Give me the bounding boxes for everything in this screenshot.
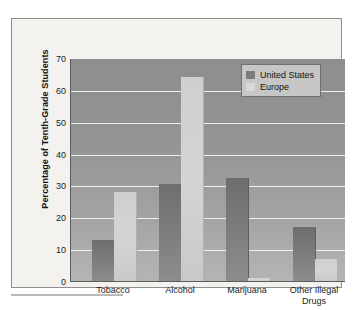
legend-swatch-icon-united-states	[246, 71, 255, 79]
y-tick-label: 10	[44, 246, 66, 255]
y-tick-label: 30	[44, 182, 66, 191]
x-tick-label-alcohol: Alcohol	[147, 285, 213, 296]
legend-label-europe: Europe	[260, 82, 289, 92]
bar-europe-alcohol	[181, 77, 204, 281]
chart-frame: Percentage of Tenth-Grade Students 70 60…	[11, 18, 342, 288]
y-tick-label: 40	[44, 151, 66, 160]
bar-united-states-alcohol	[159, 184, 182, 281]
gridline-20	[71, 218, 345, 219]
bar-europe-tobacco	[114, 192, 137, 281]
y-tick-label: 0	[44, 278, 66, 287]
bar-europe-other-illegal-drugs	[315, 259, 338, 281]
legend-item-united-states: United States	[246, 69, 314, 80]
x-tick-label-other-illegal-drugs: Other Illegal Drugs	[281, 285, 347, 307]
legend: United States Europe	[241, 64, 321, 97]
x-tick-label-line1: Alcohol	[147, 285, 213, 296]
bar-united-states-other-illegal-drugs	[293, 227, 316, 281]
bar-europe-marijuana	[248, 278, 271, 281]
y-tick-label: 70	[44, 55, 66, 64]
x-tick-label-line1: Marijuana	[214, 285, 280, 296]
legend-label-united-states: United States	[260, 70, 314, 80]
x-tick-label-line2: Drugs	[281, 296, 347, 307]
plot-area: United States Europe	[70, 59, 345, 282]
gridline-50	[71, 123, 345, 124]
gridline-40	[71, 155, 345, 156]
y-tick-label: 50	[44, 119, 66, 128]
x-axis-tick-labels: Tobacco Alcohol Marijuana Other Illegal …	[70, 285, 345, 310]
bar-united-states-marijuana	[226, 178, 249, 282]
gridline-30	[71, 186, 345, 187]
legend-swatch-icon-europe	[246, 83, 255, 91]
x-tick-label-marijuana: Marijuana	[214, 285, 280, 296]
caption-rule	[11, 294, 123, 296]
y-axis-tick-labels: 70 60 50 40 30 20 10 0	[42, 59, 66, 282]
bar-united-states-tobacco	[92, 240, 115, 281]
x-tick-label-line1: Other Illegal	[281, 285, 347, 296]
y-tick-label: 20	[44, 214, 66, 223]
legend-item-europe: Europe	[246, 81, 314, 92]
y-tick-label: 60	[44, 87, 66, 96]
